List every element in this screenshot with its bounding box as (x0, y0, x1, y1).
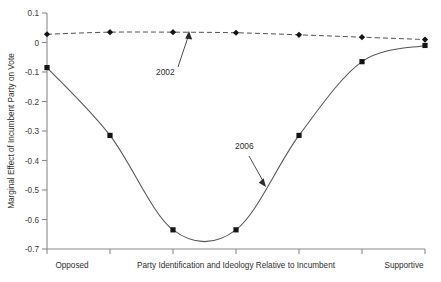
data-point-2002-4 (296, 32, 302, 38)
y-tick-label-5: -0.4 (25, 157, 40, 166)
data-point-2006-6 (422, 43, 427, 48)
data-point-2002-6 (422, 36, 428, 42)
y-tick-label-2: -0.1 (25, 68, 40, 77)
data-point-2002-5 (359, 34, 365, 40)
y-tick-label-1: 0 (34, 39, 39, 48)
y-tick-label-6: -0.5 (25, 186, 40, 195)
annotation-2002-arrow (178, 37, 188, 67)
annotation-2006-label: 2006 (235, 141, 254, 151)
data-point-2002-1 (107, 29, 113, 35)
x-axis-right-category: Supportive (384, 261, 424, 270)
annotation-2006-arrow (249, 156, 263, 181)
annotation-2006: 2006 (235, 141, 266, 187)
y-tick-label-7: -0.6 (25, 216, 40, 225)
data-point-2002-2 (170, 29, 176, 35)
data-point-2002-3 (233, 30, 239, 36)
y-axis-tick-labels: 0.1 0 -0.1 -0.2 -0.3 -0.4 -0.5 -0.6 -0.7 (25, 9, 40, 254)
annotation-2002-label: 2002 (156, 67, 175, 77)
data-point-2006-5 (359, 59, 364, 64)
annotation-2002: 2002 (156, 31, 192, 77)
data-point-2006-1 (107, 133, 112, 138)
data-point-2006-0 (44, 65, 49, 70)
y-axis-title: Marginal Effect of Incumbent Party on Vo… (7, 53, 16, 209)
data-point-2006-3 (233, 227, 238, 232)
chart-figure: 0.1 0 -0.1 -0.2 -0.3 -0.4 -0.5 -0.6 -0.7… (0, 0, 441, 282)
y-tick-label-4: -0.3 (25, 127, 40, 136)
y-tick-label-8: -0.7 (25, 245, 40, 254)
chart-canvas: 0.1 0 -0.1 -0.2 -0.3 -0.4 -0.5 -0.6 -0.7… (0, 0, 441, 282)
data-point-2002-0 (44, 31, 50, 37)
series-layer (44, 29, 428, 242)
y-tick-label-0: 0.1 (28, 9, 40, 18)
y-tick-label-3: -0.2 (25, 98, 40, 107)
x-axis-left-category: Opposed (55, 261, 89, 270)
data-point-2006-2 (170, 227, 175, 232)
series-2002 (44, 29, 428, 43)
annotation-2006-arrowhead (259, 178, 266, 187)
x-axis-ticks (47, 249, 425, 254)
y-axis-ticks (42, 13, 47, 249)
data-point-2006-4 (296, 133, 301, 138)
x-axis-title: Party Identification and Ideology Relati… (137, 261, 336, 270)
